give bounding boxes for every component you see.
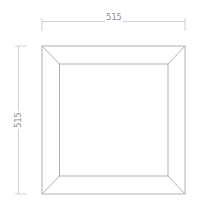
miter-top-left: [42, 46, 60, 64]
outer-square: [42, 46, 185, 194]
frame: [42, 46, 185, 194]
frame-drawing: 515 515: [0, 0, 198, 204]
miter-bottom-left: [42, 176, 60, 194]
width-label: 515: [106, 13, 121, 22]
miter-bottom-right: [168, 176, 185, 194]
miter-top-right: [168, 46, 185, 64]
inner-square: [60, 64, 169, 176]
height-label: 515: [14, 112, 23, 127]
